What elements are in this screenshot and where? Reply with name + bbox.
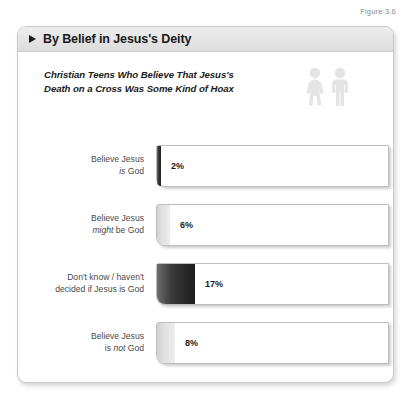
female-figure-icon — [304, 66, 326, 106]
bar-label: Don't know / haven't decided if Jesus is… — [34, 272, 144, 295]
bar-label-line2-pre: decided if Jesus is God — [55, 284, 144, 294]
bar-chart: Believe Jesus is God 2% Believe Jesus mi… — [18, 145, 393, 381]
bar-label-line1: Believe Jesus — [91, 154, 144, 164]
bar-label-line1: Believe Jesus — [91, 213, 144, 223]
figure-panel: By Belief in Jesus's Deity Christian Tee… — [17, 26, 394, 383]
bar-fill — [157, 146, 161, 186]
bar-value-label: 2% — [171, 161, 184, 171]
bar-label-line2-post: God — [125, 166, 144, 176]
bar-fill — [157, 264, 195, 304]
chart-subtitle: Christian Teens Who Believe That Jesus's… — [44, 68, 259, 96]
bar-label-line2-emphasis: might — [92, 225, 113, 235]
panel-header: By Belief in Jesus's Deity — [18, 27, 393, 52]
bar-row: Believe Jesus is God 2% — [18, 145, 393, 187]
bar-label-line2-post: be God — [113, 225, 144, 235]
bar-track: 8% — [156, 322, 389, 364]
bar-track: 17% — [156, 263, 389, 305]
bar-label-line2-emphasis: not — [113, 343, 125, 353]
triangle-bullet-icon — [29, 35, 36, 43]
male-figure-icon — [329, 66, 351, 106]
figure-label: Figure 3.6 — [360, 7, 396, 16]
bar-track: 6% — [156, 204, 389, 246]
bar-label: Believe Jesus is not God — [34, 331, 144, 354]
bar-label: Believe Jesus is God — [34, 154, 144, 177]
subtitle-block: Christian Teens Who Believe That Jesus's… — [44, 68, 369, 106]
bar-row: Believe Jesus might be God 6% — [18, 204, 393, 246]
bar-label-line1: Believe Jesus — [91, 331, 144, 341]
people-icons-group — [304, 66, 351, 106]
bar-row: Believe Jesus is not God 8% — [18, 322, 393, 364]
bar-fill — [157, 323, 175, 363]
bar-label-line1: Don't know / haven't — [67, 272, 144, 282]
bar-value-label: 8% — [185, 338, 198, 348]
bar-value-label: 6% — [180, 220, 193, 230]
panel-header-title: By Belief in Jesus's Deity — [43, 32, 191, 46]
bar-fill — [157, 205, 170, 245]
bar-value-label: 17% — [205, 279, 223, 289]
bar-track: 2% — [156, 145, 389, 187]
bar-label-line2-post: God — [125, 343, 144, 353]
bar-label: Believe Jesus might be God — [34, 213, 144, 236]
bar-row: Don't know / haven't decided if Jesus is… — [18, 263, 393, 305]
